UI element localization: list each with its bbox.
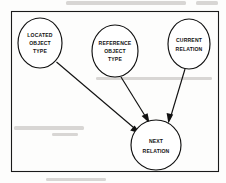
- scan-smudge-left: [14, 126, 84, 130]
- current-relation-label-line-2: RELATION: [176, 46, 203, 52]
- reference-object-type-label-line-3: TYPE: [108, 56, 122, 62]
- next-relation-label-line-1: NEXT: [149, 138, 164, 144]
- edge-reference-to-next-line: [121, 77, 147, 119]
- reference-object-type-label-line-2: OBJECT: [104, 48, 126, 54]
- diagram-canvas: LOCATED OBJECT TYPE REFERENCE OBJECT TYP…: [0, 0, 226, 183]
- reference-object-type-label-line-1: REFERENCE: [99, 40, 132, 46]
- current-relation-label-line-1: CURRENT: [176, 37, 203, 43]
- scan-smudge-top: [66, 1, 186, 5]
- node-current-relation[interactable]: CURRENT RELATION: [168, 19, 210, 69]
- current-relation-ellipse[interactable]: [168, 19, 210, 69]
- scan-smudge-top-right: [196, 1, 218, 5]
- node-located-object-type[interactable]: LOCATED OBJECT TYPE: [18, 18, 62, 68]
- edge-reference-to-next: [121, 77, 150, 123]
- next-relation-ellipse[interactable]: [131, 120, 181, 170]
- node-next-relation[interactable]: NEXT RELATION: [131, 120, 181, 170]
- located-object-type-label-line-1: LOCATED: [27, 32, 52, 38]
- scan-smudge-left-lower: [52, 133, 78, 136]
- located-object-type-label-line-2: OBJECT: [29, 40, 51, 46]
- next-relation-label-line-2: RELATION: [143, 148, 170, 154]
- node-reference-object-type[interactable]: REFERENCE OBJECT TYPE: [92, 25, 138, 77]
- edge-current-to-next-line: [170, 69, 185, 119]
- scan-smudge-bottom: [46, 178, 106, 181]
- diagram-screenshot: LOCATED OBJECT TYPE REFERENCE OBJECT TYP…: [0, 0, 226, 183]
- located-object-type-label-line-3: TYPE: [33, 48, 47, 54]
- edge-current-to-next-arrowhead: [167, 113, 174, 124]
